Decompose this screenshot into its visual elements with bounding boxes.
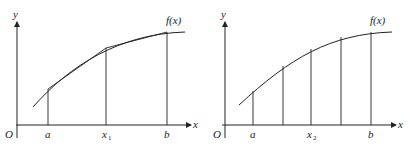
- curve-f: [239, 32, 392, 105]
- left-figure: y x O f(x) a x 1 b: [5, 8, 198, 142]
- tick-label-x1: x: [101, 128, 107, 140]
- x-axis-label: x: [397, 118, 403, 130]
- curve-f: [33, 32, 185, 107]
- curve-label: f(x): [166, 14, 182, 27]
- tick-label-b: b: [368, 128, 374, 140]
- tick-label-x2-subscript: 2: [313, 134, 317, 142]
- y-axis-label: y: [220, 8, 226, 20]
- tick-label-a: a: [45, 128, 51, 140]
- right-figure: y x O f(x) a x 2 b: [213, 8, 403, 142]
- y-axis-label: y: [12, 8, 18, 20]
- tick-label-x1-subscript: 1: [108, 134, 112, 142]
- x-axis-label: x: [192, 118, 198, 130]
- tick-label-x2: x: [306, 128, 312, 140]
- tick-label-a: a: [250, 128, 256, 140]
- origin-label: O: [5, 128, 13, 140]
- curve-label: f(x): [370, 14, 386, 27]
- figure-canvas: y x O f(x) a x 1 b y x O f(x) a x 2 b: [0, 0, 408, 149]
- chord-lines: [48, 32, 167, 89]
- origin-label: O: [213, 128, 221, 140]
- tick-label-b: b: [164, 128, 170, 140]
